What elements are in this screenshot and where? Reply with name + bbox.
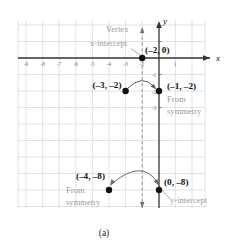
x-axis-arrowhead <box>203 55 210 61</box>
x-tick-label: -5 <box>90 61 95 67</box>
point-label-vertex: (–2, 0) <box>145 45 170 55</box>
x-tick-label: -9 <box>24 61 29 67</box>
vertex-annotation: Vertex <box>106 24 129 34</box>
y-tick-label: -1 <box>152 72 157 78</box>
x-intercept-annotation: x-intercept <box>90 38 128 48</box>
point-left-lower <box>106 187 112 193</box>
symmetry-top-arrowhead <box>140 27 144 33</box>
figure-caption: (a) <box>99 228 110 239</box>
x-tick-label: -6 <box>74 61 79 67</box>
y-tick-labels: -1 -2 -3 <box>152 72 157 111</box>
graph-svg: -9 -8 -7 -6 -5 -4 -3 -2 1 -1 -2 -3 x y <box>0 0 243 250</box>
x-tick-label: -2 <box>140 61 145 67</box>
y-tick-label: -3 <box>152 105 157 111</box>
point-right-lower <box>156 187 162 193</box>
from-symmetry-left-line2: symmetry <box>66 197 101 207</box>
x-tick-label: -7 <box>57 61 62 67</box>
x-tick-label: -3 <box>123 61 128 67</box>
point-right-upper <box>156 88 162 94</box>
from-symmetry-right-line1: From <box>167 94 186 104</box>
y-intercept-leader-line <box>161 189 170 199</box>
x-tick-label: -4 <box>107 61 112 67</box>
x-intercept-leader-line <box>131 49 140 56</box>
x-tick-label: -8 <box>40 61 45 67</box>
point-label-right-lower: (0, –8) <box>164 177 189 187</box>
point-label-left-upper: (–3, –2) <box>92 80 121 90</box>
symmetry-arc-lower <box>110 171 159 186</box>
from-symmetry-right-line2: symmetry <box>167 106 202 116</box>
symmetry-bottom-arrowhead <box>140 202 144 208</box>
point-label-left-lower: (–4, –8) <box>76 171 105 181</box>
point-label-right-upper: (–1, –2) <box>167 81 196 91</box>
y-tick-label: -2 <box>152 89 157 95</box>
x-tick-labels: -9 -8 -7 -6 -5 -4 -3 -2 1 <box>24 61 177 67</box>
y-intercept-annotation: y-intercept <box>170 195 208 205</box>
x-axis-label: x <box>215 53 220 63</box>
y-axis-label: y <box>162 16 167 26</box>
y-axis-arrowhead <box>156 21 162 28</box>
parabola-key-points-figure: -9 -8 -7 -6 -5 -4 -3 -2 1 -1 -2 -3 x y <box>0 0 243 250</box>
point-left-upper <box>122 88 128 94</box>
point-vertex <box>139 55 145 61</box>
from-symmetry-left-line1: From <box>66 185 85 195</box>
x-tick-label: 1 <box>174 61 177 67</box>
